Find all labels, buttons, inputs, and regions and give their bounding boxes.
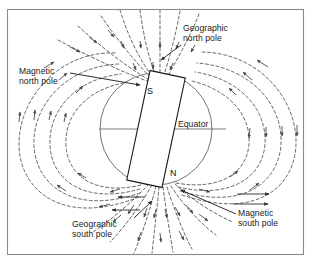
magnet-north-label: N [170,168,177,178]
label-magnetic-south-pole: Magnetic south pole [238,208,278,229]
label-equator: Equator [178,119,208,129]
magnet-south-label: S [147,86,153,96]
label-geographic-north-pole: Geographic north pole [183,23,228,44]
label-geographic-south-pole: Geographic south pole [72,219,117,240]
label-magnetic-north-pole: Magnetic north pole [19,66,58,87]
figure-root: Geographic north pole Magnetic north pol… [0,0,322,269]
